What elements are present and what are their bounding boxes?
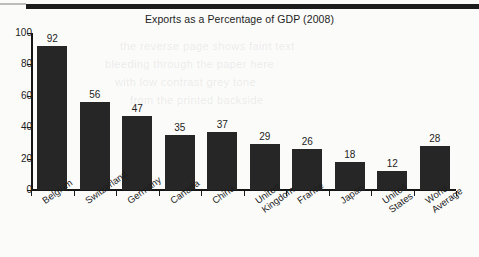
- bar-value-label: 12: [372, 158, 412, 169]
- y-axis-line: [31, 33, 33, 190]
- x-tick-mark: [244, 191, 245, 196]
- x-tick-mark: [74, 191, 75, 196]
- bar-value-label: 37: [202, 119, 242, 130]
- y-tick-label: 80: [8, 58, 32, 69]
- x-tick-mark: [414, 191, 415, 196]
- x-tick-mark: [371, 191, 372, 196]
- bar-value-label: 29: [245, 131, 285, 142]
- x-tick-mark: [329, 191, 330, 196]
- x-tick-mark: [201, 191, 202, 196]
- y-tick-0: 0: [0, 190, 32, 191]
- y-tick-40: 40: [0, 127, 32, 128]
- bar-value-label: 56: [75, 89, 115, 100]
- bar-value-label: 18: [330, 149, 370, 160]
- bar-value-label: 47: [117, 103, 157, 114]
- x-tick-mark: [116, 191, 117, 196]
- bar: [207, 132, 237, 190]
- y-tick-80: 80: [0, 64, 32, 65]
- y-tick-100: 100: [0, 33, 32, 34]
- bar: [80, 102, 110, 190]
- bar-value-label: 26: [287, 136, 327, 147]
- y-tick-60: 60: [0, 96, 32, 97]
- bar-value-label: 35: [160, 122, 200, 133]
- bar-value-label: 28: [415, 133, 455, 144]
- chart-figure: the reverse page shows faint text bleedi…: [0, 0, 479, 257]
- x-tick-mark: [31, 191, 32, 196]
- y-tick-20: 20: [0, 159, 32, 160]
- y-tick-label: 0: [8, 184, 32, 195]
- y-tick-label: 60: [8, 90, 32, 101]
- bar: [37, 46, 67, 190]
- y-tick-label: 20: [8, 153, 32, 164]
- y-tick-label: 40: [8, 121, 32, 132]
- plot-area: 020406080100 92564735372926181228 Belgiu…: [0, 0, 479, 257]
- y-tick-label: 100: [8, 27, 32, 38]
- bar-value-label: 92: [32, 33, 72, 44]
- x-tick-mark: [159, 191, 160, 196]
